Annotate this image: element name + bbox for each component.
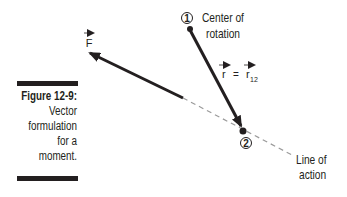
center-of-rotation-label-line2: rotation <box>206 27 240 40</box>
point-1-dot <box>187 26 193 32</box>
equals-sign: = <box>233 69 239 80</box>
point-2-marker: 2 <box>241 138 252 150</box>
point-2-dot <box>240 128 247 135</box>
point-2-number: 2 <box>243 138 249 149</box>
point-1-number: 1 <box>184 13 190 24</box>
point-1-marker: 1 <box>182 13 193 25</box>
center-of-rotation-label: Center of <box>202 11 245 24</box>
force-vector-arrow <box>90 53 183 98</box>
r-label: r <box>222 68 226 80</box>
line-of-action-label: Line of <box>296 153 327 166</box>
moment-diagram: 1 2 Center of rotation F r = r 12 Line o… <box>0 0 347 197</box>
line-of-action-label-line2: action <box>299 168 326 181</box>
line-of-action-dashed <box>183 98 292 155</box>
r12-subscript: 12 <box>250 76 258 83</box>
force-label: F <box>86 37 93 49</box>
